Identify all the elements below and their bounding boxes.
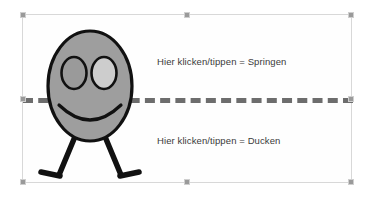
- resize-handle-bottom-center[interactable]: [184, 179, 190, 185]
- eye-left: [62, 57, 87, 89]
- resize-handle-top-center[interactable]: [184, 12, 190, 18]
- selected-graphic-frame[interactable]: Hier klicken/tippen = Springen Hier klic…: [22, 14, 352, 183]
- resize-handle-top-left[interactable]: [20, 12, 26, 18]
- resize-handle-top-right[interactable]: [348, 12, 354, 18]
- stick-figure-character: [31, 23, 151, 188]
- body-ellipse: [48, 31, 132, 141]
- zone-label-jump: Hier klicken/tippen = Springen: [157, 56, 286, 68]
- resize-handle-middle-left[interactable]: [20, 96, 26, 102]
- eye-right: [92, 57, 117, 89]
- foot-left: [41, 172, 60, 176]
- screenshot-canvas: Hier klicken/tippen = Springen Hier klic…: [0, 0, 374, 199]
- zone-label-duck: Hier klicken/tippen = Ducken: [157, 135, 280, 147]
- resize-handle-middle-right[interactable]: [348, 96, 354, 102]
- resize-handle-bottom-right[interactable]: [348, 179, 354, 185]
- foot-right: [120, 172, 139, 176]
- resize-handle-bottom-left[interactable]: [20, 179, 26, 185]
